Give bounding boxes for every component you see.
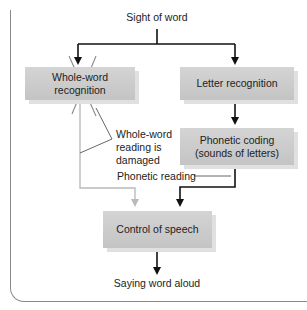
phonetic-reading-label: Phonetic reading [117, 170, 196, 183]
phonetic-coding-label: Phonetic coding (sounds of letters) [194, 134, 280, 160]
damaged-annotation: Whole-word reading is damaged [116, 128, 172, 167]
source-label: Sight of word [0, 11, 307, 24]
letter-recognition-box: Letter recognition [180, 67, 294, 100]
control-of-speech-label: Control of speech [116, 223, 198, 236]
damaged-line-1: Whole-word [116, 128, 172, 141]
whole-word-recognition-box: Whole-word recognition [25, 67, 135, 100]
letter-recognition-label: Letter recognition [196, 77, 277, 90]
whole-word-recognition-label: Whole-word recognition [25, 71, 135, 97]
control-of-speech-box: Control of speech [103, 211, 212, 248]
phonetic-coding-box: Phonetic coding (sounds of letters) [180, 128, 294, 165]
output-label: Saying word aloud [0, 277, 307, 290]
damaged-line-3: damaged [116, 154, 172, 167]
damaged-line-2: reading is [116, 141, 172, 154]
